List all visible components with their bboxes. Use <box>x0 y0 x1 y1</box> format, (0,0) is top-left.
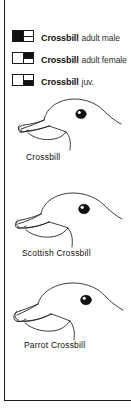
swatch-adult-female-icon <box>12 52 34 64</box>
scottish-crossbill-head-icon <box>8 188 126 250</box>
swatch-horizontal-divider <box>23 36 33 37</box>
legend-label: Crossbilljuv. <box>41 72 94 88</box>
figure-crossbill: Crossbill <box>8 92 126 162</box>
swatch-horizontal-divider <box>23 80 33 81</box>
crossbill-plate: Crossbilladult male Crossbilladult femal… <box>0 0 131 408</box>
legend-label: Crossbilladult male <box>41 28 120 44</box>
figure-caption: Parrot Crossbill <box>8 341 126 350</box>
swatch-adult-male-icon <box>12 30 34 42</box>
legend-species-qualifier: juv. <box>82 77 94 87</box>
figure-scottish-crossbill: Scottish Crossbill <box>8 188 126 258</box>
panel-bottom-rule <box>4 400 131 401</box>
legend-row: Crossbilladult male <box>12 25 131 47</box>
legend-species-name: Crossbill <box>41 33 79 43</box>
legend-row: Crossbilljuv. <box>12 69 131 91</box>
figure-parrot-crossbill: Parrot Crossbill <box>8 280 126 350</box>
legend-species-qualifier: adult male <box>82 33 120 43</box>
figure-caption: Scottish Crossbill <box>8 249 126 258</box>
crossbill-head-icon <box>8 92 126 154</box>
panel-left-rule <box>4 0 5 401</box>
legend-label: Crossbilladult female <box>41 50 127 66</box>
legend-species-name: Crossbill <box>41 77 79 87</box>
swatch-juvenile-icon <box>12 74 34 86</box>
figure-caption: Crossbill <box>8 153 126 162</box>
legend-row: Crossbilladult female <box>12 47 131 69</box>
legend-species-name: Crossbill <box>41 55 79 65</box>
legend-species-qualifier: adult female <box>82 55 127 65</box>
swatch-horizontal-divider <box>23 58 33 59</box>
swatch-fill <box>13 31 23 41</box>
legend: Crossbilladult male Crossbilladult femal… <box>12 25 131 91</box>
parrot-crossbill-head-icon <box>8 280 126 342</box>
